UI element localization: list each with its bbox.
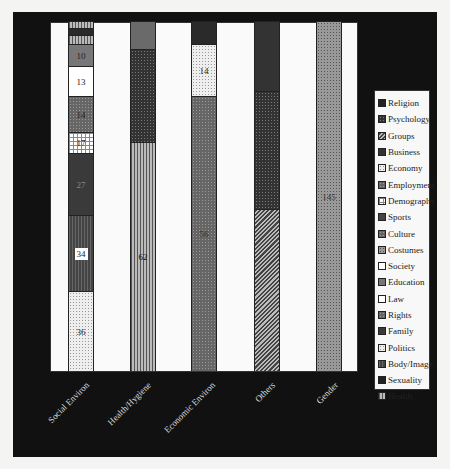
legend-label: Law bbox=[388, 294, 404, 304]
legend-label: Body/Image bbox=[388, 359, 433, 369]
legend-item-society: Society bbox=[378, 258, 426, 274]
segment-label: 145 bbox=[322, 192, 336, 202]
legend-label: Culture bbox=[388, 229, 415, 239]
segment-label: 10 bbox=[77, 51, 86, 61]
plot-area: 36 34 27 17 14 13 10 62 56 14 145 bbox=[50, 22, 358, 372]
legend-item-culture: Culture bbox=[378, 225, 426, 241]
legend-swatch bbox=[378, 181, 386, 189]
segment-social-10: 10 bbox=[68, 44, 94, 66]
legend-swatch bbox=[378, 164, 386, 172]
segment-social-27: 27 bbox=[68, 153, 94, 215]
legend-swatch bbox=[378, 376, 386, 384]
segment-social-small-3 bbox=[68, 21, 94, 28]
segment-economic-top bbox=[191, 21, 217, 44]
segment-health-top bbox=[130, 21, 156, 49]
legend-swatch bbox=[378, 262, 386, 270]
segment-label: 13 bbox=[77, 77, 86, 87]
bar-social-environ: 36 34 27 17 14 13 10 bbox=[68, 23, 94, 371]
bar-gender: 145 bbox=[316, 23, 342, 371]
legend-label: Politics bbox=[388, 343, 415, 353]
legend-item-religion: Religion bbox=[378, 95, 426, 111]
legend-label: Religion bbox=[388, 98, 419, 108]
segment-social-36: 36 bbox=[68, 291, 94, 371]
legend-label: Health bbox=[388, 391, 412, 401]
legend-item-sports: Sports bbox=[378, 209, 426, 225]
legend-label: Economy bbox=[388, 163, 423, 173]
legend-swatch bbox=[378, 311, 386, 319]
segment-label: 62 bbox=[139, 252, 148, 262]
legend-item-politics: Politics bbox=[378, 339, 426, 355]
segment-social-13: 13 bbox=[68, 66, 94, 96]
segment-label: 17 bbox=[77, 138, 86, 148]
legend-item-rights: Rights bbox=[378, 307, 426, 323]
segment-social-small-1 bbox=[68, 35, 94, 44]
legend-swatch bbox=[378, 148, 386, 156]
legend-label: Business bbox=[388, 147, 420, 157]
legend-swatch bbox=[378, 392, 386, 400]
legend-item-costumes: Costumes bbox=[378, 242, 426, 258]
legend-label: Rights bbox=[388, 310, 412, 320]
segment-health-dark bbox=[130, 49, 156, 142]
legend-label: Sexuality bbox=[388, 375, 422, 385]
legend-swatch bbox=[378, 344, 386, 352]
legend-label: Family bbox=[388, 326, 414, 336]
bar-economic-environ: 56 14 bbox=[191, 23, 217, 371]
legend-label: Society bbox=[388, 261, 415, 271]
legend-label: Costumes bbox=[388, 245, 424, 255]
legend-item-family: Family bbox=[378, 323, 426, 339]
legend-item-law: Law bbox=[378, 291, 426, 307]
segment-label: 14 bbox=[200, 66, 209, 76]
segment-economic-main: 56 bbox=[191, 96, 217, 371]
legend-item-sexuality: Sexuality bbox=[378, 372, 426, 388]
segment-social-14: 14 bbox=[68, 96, 94, 132]
legend-item-business: Business bbox=[378, 144, 426, 160]
segment-social-small-2 bbox=[68, 28, 94, 35]
segment-economic-14: 14 bbox=[191, 44, 217, 96]
legend-swatch bbox=[378, 246, 386, 254]
legend-label: Employment bbox=[388, 180, 435, 190]
legend-item-employment: Employment bbox=[378, 176, 426, 192]
legend: Religion Psychology Groups Business Econ… bbox=[374, 90, 430, 390]
legend-item-education: Education bbox=[378, 274, 426, 290]
segment-label: 27 bbox=[77, 180, 86, 190]
legend-swatch bbox=[378, 295, 386, 303]
legend-swatch bbox=[378, 132, 386, 140]
legend-swatch bbox=[378, 115, 386, 123]
segment-social-17: 17 bbox=[68, 132, 94, 153]
legend-label: Groups bbox=[388, 131, 415, 141]
segment-label: 14 bbox=[77, 110, 86, 120]
legend-swatch bbox=[378, 327, 386, 335]
segment-health-main: 62 bbox=[130, 142, 156, 371]
segment-others-diag bbox=[254, 209, 280, 371]
legend-item-body-image: Body/Image bbox=[378, 356, 426, 372]
legend-swatch bbox=[378, 213, 386, 221]
segment-social-34: 34 bbox=[68, 215, 94, 291]
legend-item-psychology: Psychology bbox=[378, 111, 426, 127]
segment-others-top bbox=[254, 21, 280, 91]
segment-label: 34 bbox=[75, 248, 88, 260]
bar-others bbox=[254, 23, 280, 371]
legend-swatch bbox=[378, 99, 386, 107]
legend-item-health: Health bbox=[378, 388, 426, 404]
legend-label: Demography bbox=[388, 196, 435, 206]
legend-label: Psychology bbox=[388, 114, 430, 124]
segment-label: 56 bbox=[200, 229, 209, 239]
bar-health-hygiene: 62 bbox=[130, 23, 156, 371]
segment-gender-145: 145 bbox=[316, 21, 342, 371]
segment-label: 36 bbox=[77, 327, 86, 337]
legend-swatch bbox=[378, 278, 386, 286]
legend-swatch bbox=[378, 230, 386, 238]
legend-item-groups: Groups bbox=[378, 128, 426, 144]
legend-item-demography: Demography bbox=[378, 193, 426, 209]
legend-label: Sports bbox=[388, 212, 411, 222]
legend-swatch bbox=[378, 197, 386, 205]
legend-label: Education bbox=[388, 277, 425, 287]
segment-others-check bbox=[254, 91, 280, 209]
legend-swatch bbox=[378, 360, 386, 368]
legend-item-economy: Economy bbox=[378, 160, 426, 176]
